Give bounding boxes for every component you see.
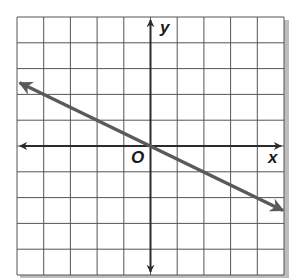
coordinate-plane: y x O [0, 0, 293, 278]
x-axis-label: x [267, 148, 279, 167]
y-axis-label: y [159, 18, 171, 37]
origin-label: O [131, 148, 144, 167]
